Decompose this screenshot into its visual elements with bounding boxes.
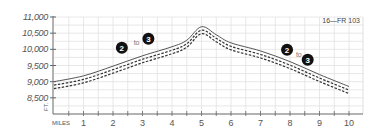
x-tick-label: 10 [344, 118, 354, 128]
x-tick-label: 8 [287, 118, 292, 128]
route-marker: 3 [142, 33, 154, 45]
marker-number: 3 [305, 56, 310, 65]
y-tick-label: 9,500 [27, 61, 48, 71]
marker-number: 2 [285, 46, 290, 55]
x-tick-label: 4 [169, 118, 174, 128]
route-marker: 2 [281, 44, 293, 56]
marker-to-label: to [134, 39, 140, 46]
marker-number: 3 [146, 35, 151, 44]
route-marker: 2 [116, 42, 128, 54]
marker-to-label: to [296, 51, 302, 58]
marker-number: 2 [120, 44, 125, 53]
x-axis-label: MILES [52, 120, 70, 126]
axes [53, 16, 363, 114]
route-marker: 3 [302, 54, 314, 66]
x-tick-label: 7 [258, 118, 263, 128]
x-tick-label: 3 [140, 118, 145, 128]
y-tick-label: 8,500 [27, 93, 48, 103]
y-tick-label: 10,000 [22, 44, 48, 54]
elevation-chart: 11,00010,50010,0009,5009,0008,500 123456… [0, 0, 376, 134]
x-tick-label: 5 [199, 118, 204, 128]
x-tick-label: 2 [110, 118, 115, 128]
x-tick-label: 1 [81, 118, 86, 128]
x-tick-label: 9 [317, 118, 322, 128]
grid [54, 17, 363, 114]
y-axis-label: FT. [43, 102, 49, 111]
y-tick-label: 11,000 [23, 12, 48, 22]
y-tick-label: 10,500 [22, 28, 48, 38]
y-axis-ticks: 11,00010,50010,0009,5009,0008,500 [22, 12, 56, 103]
x-tick-label: 6 [228, 118, 233, 128]
route-label: 16—FR 103 [322, 17, 360, 24]
y-tick-label: 9,000 [27, 77, 48, 87]
